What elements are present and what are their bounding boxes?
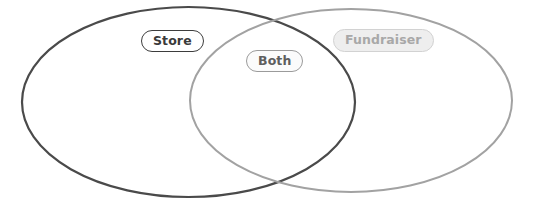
venn-label-store-text: Store <box>153 35 192 48</box>
venn-label-both[interactable]: Both <box>246 50 303 72</box>
venn-label-fundraiser[interactable]: Fundraiser <box>333 29 434 52</box>
venn-diagram: Store Both Fundraiser <box>0 0 537 205</box>
venn-label-both-text: Both <box>258 55 291 68</box>
venn-label-fundraiser-text: Fundraiser <box>345 34 422 47</box>
venn-canvas <box>0 0 537 205</box>
venn-label-store[interactable]: Store <box>141 30 204 52</box>
